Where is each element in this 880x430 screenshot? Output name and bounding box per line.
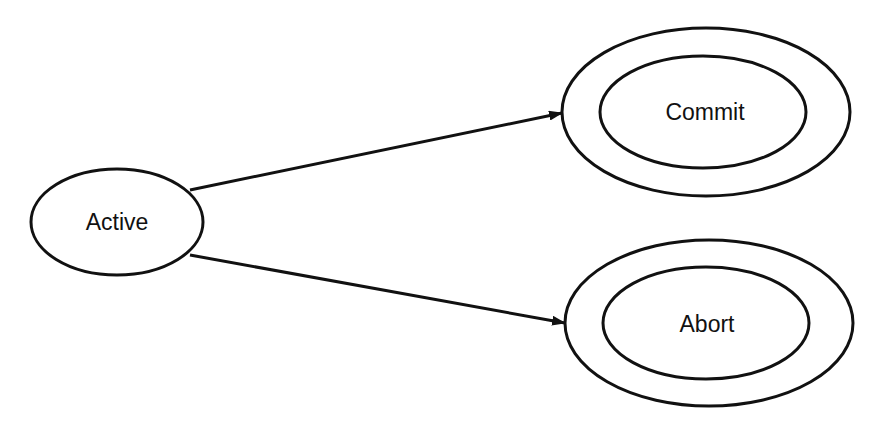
state-active-label: Active bbox=[86, 209, 149, 235]
transition-active-to-abort bbox=[190, 255, 565, 323]
state-abort: Abort bbox=[565, 240, 853, 406]
state-commit: Commit bbox=[562, 28, 850, 196]
transition-active-to-commit bbox=[190, 113, 562, 190]
state-commit-label: Commit bbox=[665, 99, 745, 125]
state-active: Active bbox=[31, 169, 203, 275]
state-diagram: Active Commit Abort bbox=[0, 0, 880, 430]
state-abort-label: Abort bbox=[680, 311, 736, 337]
